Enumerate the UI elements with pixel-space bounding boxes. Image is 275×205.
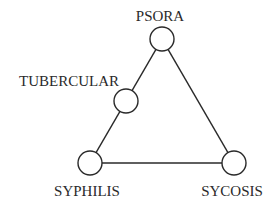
node-label: SYPHILIS (54, 183, 120, 199)
edge-sycosis-psora (168, 49, 228, 152)
node-syphilis: SYPHILIS (54, 151, 120, 199)
node-label: SYCOSIS (201, 183, 263, 199)
node-psora: PSORA (136, 8, 185, 51)
node-tubercular: TUBERCULAR (19, 73, 138, 113)
edge-tubercular-syphilis (96, 111, 120, 152)
node-circle (222, 151, 246, 175)
node-label: TUBERCULAR (19, 73, 119, 89)
node-circle (114, 89, 138, 113)
node-sycosis: SYCOSIS (201, 151, 263, 199)
node-label: PSORA (136, 8, 185, 24)
node-circle (78, 151, 102, 175)
edge-psora-tubercular (132, 49, 156, 90)
miasm-triangle-diagram: PSORATUBERCULARSYPHILISSYCOSIS (0, 0, 275, 205)
node-circle (150, 27, 174, 51)
